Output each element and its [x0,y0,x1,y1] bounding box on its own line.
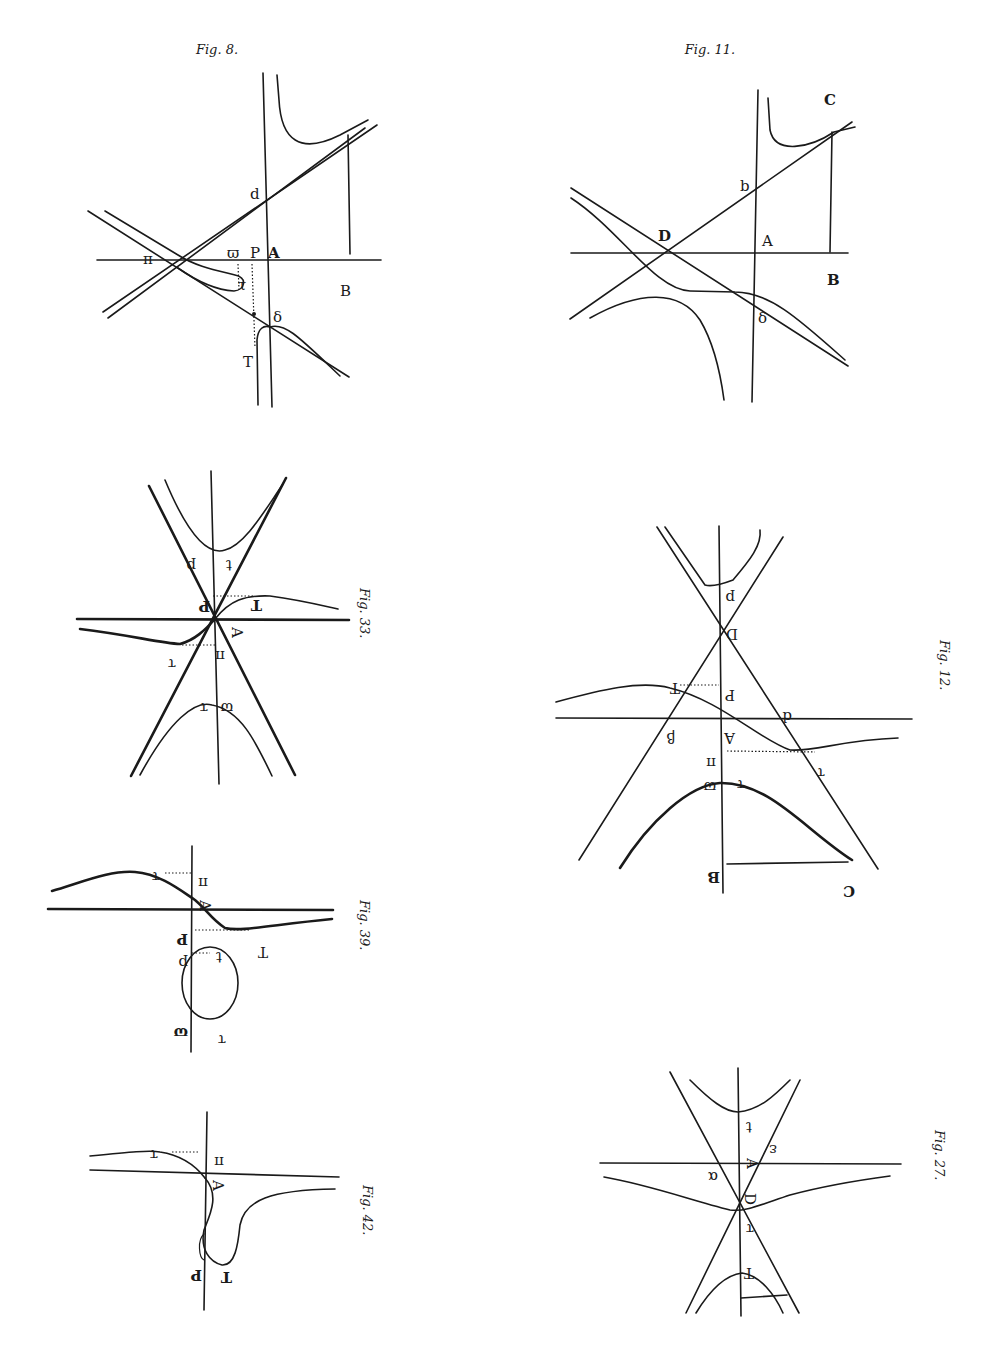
curve-loop-right [203,1178,335,1265]
figure-8: Fig. 8. d ϖ P A B δ T τ π [88,42,381,407]
curve-upper-branch [768,98,855,146]
figure-8-caption: Fig. 8. [195,42,238,57]
label-D: D [658,227,671,245]
label-C: C [843,882,855,900]
curve-loop-left [105,211,244,291]
label-T: T [258,943,268,961]
curve-left-arm [90,1151,205,1178]
curve-right-arm [215,596,338,619]
label-B: B [827,271,840,289]
figure-33-caption: Fig. 33. [357,587,372,638]
label-varpi: ϖ [221,699,233,717]
curve-lower-branch [620,783,852,868]
figure-42: Fig. 42. τ π A P T [90,1112,375,1310]
asymptote-falling [657,527,878,869]
label-A: A [743,1157,761,1169]
figure-12: Fig. 12. p D T P d β A π τ ϖ τ B C [556,526,952,900]
label-A: A [196,899,214,911]
label-alpha: α [708,1168,718,1186]
label-tau: τ [817,764,825,782]
figure-39-caption: Fig. 39. [357,899,372,950]
label-D: D [741,1193,759,1205]
label-p: p [178,954,188,972]
ordinate-B [830,132,832,252]
label-P: P [177,930,188,948]
label-t: t [216,948,222,966]
label-t: t [746,1118,752,1136]
label-tau: τ [150,1146,158,1164]
label-tau2: τ [218,1031,226,1049]
curve-lower-branch [696,1273,783,1313]
label-pi: π [215,647,225,665]
label-P: P [725,686,735,704]
label-pi: π [214,1153,224,1171]
label-d: d [782,708,792,726]
figure-27-caption: Fig. 27. [932,1129,947,1180]
segment-BC [727,862,848,864]
segment-lower [741,1295,787,1298]
label-tau: τ [746,1220,754,1238]
curve-branch-upper-right [277,75,368,144]
label-b: b [740,177,750,195]
label-A: A [209,1179,227,1191]
label-A: A [724,729,736,747]
label-T: T [744,1264,754,1282]
axis-vertical [191,846,192,1052]
axis-vertical [263,73,272,407]
figure-page: Fig. 8. d ϖ P A B δ T τ π Fig. 11. [0,0,988,1355]
figure-12-caption: Fig. 12. [937,639,952,690]
label-pi: π [198,874,208,892]
label-T: T [670,679,680,697]
curve-upper-branch [690,1080,790,1112]
axis-vertical [204,1112,207,1310]
axis-vertical [752,90,758,402]
label-delta: δ [758,309,767,327]
label-A: A [228,626,246,638]
label-varpi: ϖ [174,1024,188,1042]
label-T: T [243,353,253,371]
figure-33: Fig. 33. p t P T A π τ ϖ τ [77,471,372,784]
curve-oval [182,947,238,1019]
figure-39: Fig. 39. τ π A P T p t ϖ τ [48,846,372,1052]
label-tau: τ [168,655,176,673]
asymptote-falling [149,486,295,775]
label-A: A [267,244,280,262]
label-P: P [199,597,210,615]
label-t: τ [737,776,745,794]
label-p: p [186,557,196,575]
ordinate-B [348,135,350,254]
label-A: A [761,232,773,250]
asymptote-falling [670,1072,799,1313]
label-pi: π [143,250,153,268]
label-delta: δ [273,308,282,326]
label-T: T [250,596,262,614]
label-P: P [191,1266,202,1284]
curve-branch-lower [257,326,270,405]
label-tau: τ [152,868,160,886]
label-p: p [725,589,735,607]
figure-42-caption: Fig. 42. [360,1184,375,1235]
curve-lower-branch [590,297,724,400]
label-T: T [220,1268,232,1286]
curve-left-arm [80,619,215,644]
figure-11-caption: Fig. 11. [684,42,735,57]
axis-vertical [211,471,219,784]
label-B: B [340,282,351,300]
label-P: P [250,244,260,262]
label-epsilon: ε [769,1141,777,1159]
label-B: B [707,868,720,886]
label-C: C [824,91,836,109]
asymptote-rising [570,122,852,319]
asymptote-rising [579,537,783,860]
label-pi: π [706,754,716,772]
label-D: D [726,625,738,643]
label-beta: β [666,729,675,747]
label-tau2: τ [200,699,208,717]
figure-27: Fig. 27. t A ε α D τ T [600,1068,947,1316]
axis-vertical [738,1068,741,1316]
dotted-ordinate-P [252,264,255,348]
label-d: d [250,185,260,203]
curve-branch-lower-left [108,128,365,318]
curve-upper-branch [665,527,760,586]
axis-horizontal [48,909,333,910]
